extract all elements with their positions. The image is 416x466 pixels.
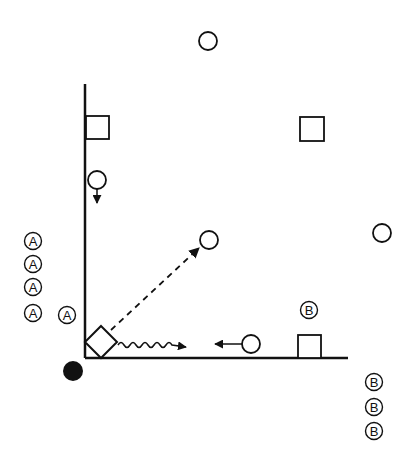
play-diagram: AAAAABBBB — [0, 0, 416, 466]
player-a-label-1-text: A — [29, 257, 38, 272]
player-a-label-0-text: A — [29, 234, 38, 249]
circle-bottom-runner-icon — [242, 335, 260, 353]
player-b-label-2: B — [366, 399, 383, 416]
player-b-label-3: B — [366, 423, 383, 440]
player-b-label-3-text: B — [370, 424, 379, 439]
diamond-corner-icon — [85, 326, 117, 358]
player-b-label-0-text: B — [305, 303, 314, 318]
square-left-icon — [86, 116, 109, 139]
player-b-label-2-text: B — [370, 400, 379, 415]
circle-center-icon — [200, 231, 218, 249]
wavy-dribble-arrow-icon — [118, 343, 186, 348]
player-b-label-1-text: B — [370, 375, 379, 390]
square-upper-right-icon — [300, 117, 324, 141]
ball-icon — [63, 361, 83, 381]
player-a-label-3: A — [25, 305, 42, 322]
player-a-label-2: A — [25, 279, 42, 296]
square-bottom-right-icon — [298, 335, 321, 358]
dashed-pass-arrow-icon — [111, 248, 199, 330]
circle-left-runner-icon — [88, 171, 106, 189]
player-b-label-0: B — [301, 302, 318, 319]
player-a-label-1: A — [25, 256, 42, 273]
player-a-label-3-text: A — [29, 306, 38, 321]
player-a-label-4-text: A — [63, 308, 72, 323]
player-a-label-0: A — [25, 233, 42, 250]
player-b-label-1: B — [366, 374, 383, 391]
circle-top-icon — [199, 32, 217, 50]
player-a-label-2-text: A — [29, 280, 38, 295]
player-a-label-4: A — [59, 307, 76, 324]
circle-right-icon — [373, 224, 391, 242]
